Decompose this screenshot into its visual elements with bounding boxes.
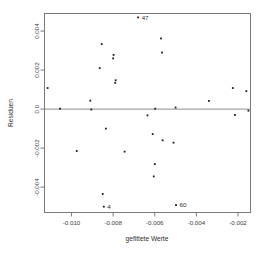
data-point — [59, 108, 61, 110]
data-point — [47, 87, 49, 89]
y-tick-label: -0.004 — [33, 178, 40, 196]
x-tick-label: -0.002 — [229, 219, 247, 226]
data-point — [234, 114, 236, 116]
data-point — [115, 79, 117, 81]
x-tick-label: -0.004 — [188, 219, 206, 226]
data-point — [153, 176, 155, 178]
data-point — [103, 206, 105, 208]
plot-background — [0, 0, 266, 256]
x-tick-label: -0.010 — [63, 219, 81, 226]
data-point — [137, 17, 139, 19]
data-point — [102, 193, 104, 195]
y-tick-label: 0.0 — [33, 104, 40, 113]
data-point — [175, 204, 177, 206]
y-tick-label: 0.002 — [33, 62, 40, 78]
x-tick-label: -0.006 — [146, 219, 164, 226]
y-tick-label: 0.004 — [33, 23, 40, 39]
scatter-plot-canvas: -0.010-0.008-0.006-0.004-0.002 0.0040.00… — [0, 0, 266, 256]
data-point — [160, 38, 162, 40]
data-point — [113, 54, 115, 56]
data-point — [152, 133, 154, 135]
data-point — [248, 110, 250, 112]
data-point — [208, 100, 210, 102]
data-point — [147, 114, 149, 116]
data-point — [76, 150, 78, 152]
data-point — [162, 139, 164, 141]
data-point — [175, 107, 177, 109]
x-axis-title: gefittete Werte — [126, 235, 169, 243]
data-point — [105, 128, 107, 130]
data-point — [154, 163, 156, 165]
data-point — [124, 151, 126, 153]
data-point — [232, 87, 234, 89]
data-point — [89, 100, 91, 102]
point-annotation: 60 — [180, 201, 187, 208]
data-point — [99, 67, 101, 69]
data-point — [112, 57, 114, 59]
data-point — [161, 52, 163, 54]
point-annotation: 4 — [107, 203, 111, 210]
residual-plot: -0.010-0.008-0.006-0.004-0.002 0.0040.00… — [0, 0, 266, 256]
data-point — [154, 108, 156, 110]
y-tick-label: -0.002 — [33, 139, 40, 157]
data-point — [245, 90, 247, 92]
data-point — [173, 142, 175, 144]
point-annotation: 47 — [142, 14, 149, 21]
data-point — [90, 109, 92, 111]
y-axis-title: Residuen — [7, 99, 14, 127]
x-tick-label: -0.008 — [104, 219, 122, 226]
data-point — [101, 43, 103, 45]
data-point — [114, 82, 116, 84]
